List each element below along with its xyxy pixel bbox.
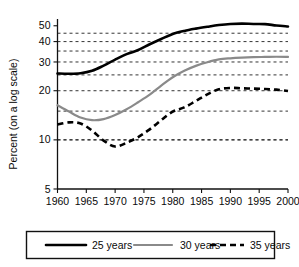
- x-tick-label-1995: 1995: [248, 195, 272, 207]
- x-tick-label-1970: 1970: [103, 195, 127, 207]
- y-axis-title-text: Percent (on a log scale): [7, 59, 19, 170]
- x-tick-label-1975: 1975: [132, 195, 156, 207]
- x-axis-ticks-group: 196019651970197519801985199019952000: [46, 189, 299, 207]
- x-tick-label-1960: 1960: [46, 195, 70, 207]
- legend-label-25-years: 25 years: [92, 239, 132, 251]
- legend-label-35-years: 35 years: [250, 239, 290, 251]
- y-axis-ticks-group: 50403020105: [39, 19, 58, 194]
- data-series-group: [58, 24, 289, 147]
- y-tick-label-50: 50: [39, 19, 51, 31]
- y-tick-label-5: 5: [45, 183, 51, 195]
- chart-svg: Percent (on a log scale) 50403020105 196…: [0, 0, 299, 267]
- y-tick-label-30: 30: [39, 56, 51, 68]
- series-line-35-years: [58, 88, 289, 147]
- x-tick-label-1980: 1980: [161, 195, 185, 207]
- x-tick-label-1965: 1965: [75, 195, 99, 207]
- x-tick-label-1985: 1985: [190, 195, 214, 207]
- y-tick-label-10: 10: [39, 133, 51, 145]
- y-tick-label-20: 20: [39, 84, 51, 96]
- y-axis-title: Percent (on a log scale): [7, 59, 19, 170]
- x-tick-label-1990: 1990: [219, 195, 243, 207]
- gridlines-group: [58, 33, 289, 140]
- y-tick-label-40: 40: [39, 35, 51, 47]
- chart-legend: 25 years30 years35 years: [27, 232, 291, 259]
- series-line-25-years: [58, 24, 289, 74]
- x-tick-label-2000: 2000: [276, 195, 299, 207]
- chart-figure: Percent (on a log scale) 50403020105 196…: [0, 0, 299, 267]
